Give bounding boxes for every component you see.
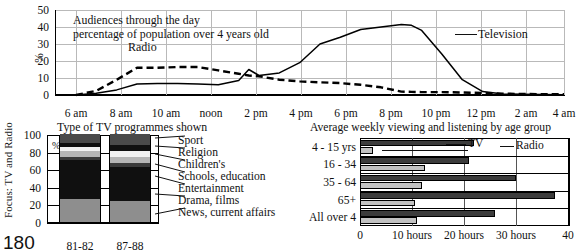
stacked-bar-chart: Type of TV programmes shown % 100 80 60 … xyxy=(0,120,300,252)
hbar-x-tick-20: 20 hours xyxy=(444,229,484,241)
hbar-radio-35-64 xyxy=(360,182,422,189)
hbar-radio-4-15-yrs xyxy=(360,147,373,154)
tv-key-leader-line xyxy=(446,144,466,145)
tv-key-label: TV xyxy=(468,137,483,150)
stacked-bar-87-88 xyxy=(109,135,151,223)
stack-x-axis xyxy=(47,223,159,224)
radio-series-annotation: Radio xyxy=(128,40,157,55)
x-tick-4am: 4 am xyxy=(553,107,576,119)
line-chart-caption: Audiences through the day percentage of … xyxy=(73,14,269,41)
x-tick-2pm: 2 pm xyxy=(244,107,267,119)
television-series-annotation: Television xyxy=(478,27,528,42)
y-tick-50: 50 xyxy=(27,4,49,16)
x-tick-6pm: 6 pm xyxy=(334,107,357,119)
caption-line-1: Audiences through the day xyxy=(73,14,269,28)
line-chart: % xyxy=(0,0,584,118)
y-tick-10: 10 xyxy=(27,72,49,84)
stack-segment-news-current-affairs xyxy=(110,201,150,222)
series-radio xyxy=(76,67,564,95)
stack-x-tick-81-82: 81-82 xyxy=(67,240,94,252)
x-tick-10pm: 10 pm xyxy=(421,107,450,119)
x-tick-8am: 8 am xyxy=(110,107,133,119)
stack-y-tick-40: 40 xyxy=(17,182,41,194)
television-leader-line xyxy=(455,34,477,35)
hbar-radio-all-over-4 xyxy=(360,217,417,224)
caption-line-2: percentage of population over 4 years ol… xyxy=(73,28,269,42)
radio-key-label: Radio xyxy=(516,139,544,152)
hbar-gridline-40 xyxy=(568,138,569,226)
x-tick-8pm: 8 pm xyxy=(379,107,402,119)
stack-segment-children-s xyxy=(60,147,100,151)
hbar-radio-65- xyxy=(360,200,415,207)
y-tick-30: 30 xyxy=(27,38,49,50)
hbar-tv-all-over-4 xyxy=(360,210,495,217)
hbar-cat-4-15: 4 - 15 yrs xyxy=(298,140,356,153)
radio-key-leader-line-2 xyxy=(382,150,468,151)
hbar-cat-16-34: 16 - 34 xyxy=(298,158,356,171)
y-tick-20: 20 xyxy=(27,55,49,67)
stack-y-axis xyxy=(47,135,48,223)
stack-segment-schools-education xyxy=(60,151,100,157)
stack-segment-entertainment xyxy=(60,157,100,160)
stack-segment-sport xyxy=(110,134,150,145)
x-tick-10am: 10 am xyxy=(152,107,180,119)
hbar-cat-all-over-4: All over 4 xyxy=(298,211,356,224)
stacked-chart-plot-area: 100 80 60 40 20 0 81-82 87-88 xyxy=(47,135,159,223)
stack-y-tick-80: 80 xyxy=(17,147,41,159)
hbar-tv-35-64 xyxy=(360,175,516,182)
stack-segment-schools-education xyxy=(110,157,150,163)
stack-segment-religion xyxy=(60,143,100,147)
x-tick-6am: 6 am xyxy=(65,107,88,119)
stack-segment-sport xyxy=(60,134,100,143)
hbar-tv-16-34 xyxy=(360,157,469,164)
stack-segment-children-s xyxy=(110,151,150,157)
stack-segment-entertainment xyxy=(110,163,150,167)
stack-x-tick-87-88: 87-88 xyxy=(117,240,144,252)
figure-page: Focus: TV and Radio 180 % xyxy=(0,0,584,252)
y-tick-40: 40 xyxy=(27,21,49,33)
hbar-x-tick-40: 40 xyxy=(562,229,574,241)
hbar-cat-65plus: 65+ xyxy=(298,193,356,206)
hbar-cat-35-64: 35 - 64 xyxy=(298,176,356,189)
stack-segment-religion xyxy=(110,145,150,150)
x-tick-12pm: 12 pm xyxy=(466,107,495,119)
horizontal-bar-chart: Average weekly viewing and listening by … xyxy=(300,120,584,252)
stack-y-tick-60: 60 xyxy=(17,164,41,176)
hbar-x-tick-10: 10 hours xyxy=(392,229,432,241)
hbar-x-tick-30: 30 hours xyxy=(496,229,536,241)
x-tick-4pm: 4 pm xyxy=(289,107,312,119)
legend-label-news: News, current affairs xyxy=(178,206,275,219)
stack-y-tick-20: 20 xyxy=(17,199,41,211)
stack-y-tick-100: 100 xyxy=(17,129,41,141)
hbar-chart-plot-area: 4 - 15 yrs 16 - 34 35 - 64 65+ All over … xyxy=(360,138,570,226)
x-tick-2am: 2 am xyxy=(515,107,538,119)
stacked-bar-81-82 xyxy=(59,135,101,223)
stack-segment-news-current-affairs xyxy=(60,199,100,222)
x-tick-noon: noon xyxy=(200,107,223,119)
hbar-radio-16-34 xyxy=(360,165,425,172)
stack-segment-drama-films xyxy=(60,160,100,200)
y-tick-0: 0 xyxy=(27,89,49,101)
radio-key-leader-line xyxy=(500,146,514,147)
hbar-tv-65- xyxy=(360,192,555,199)
hbar-x-tick-0: 0 xyxy=(357,229,363,241)
stack-segment-drama-films xyxy=(110,167,150,200)
hbar-chart-title: Average weekly viewing and listening by … xyxy=(310,121,551,134)
stack-y-tick-0: 0 xyxy=(17,217,41,229)
